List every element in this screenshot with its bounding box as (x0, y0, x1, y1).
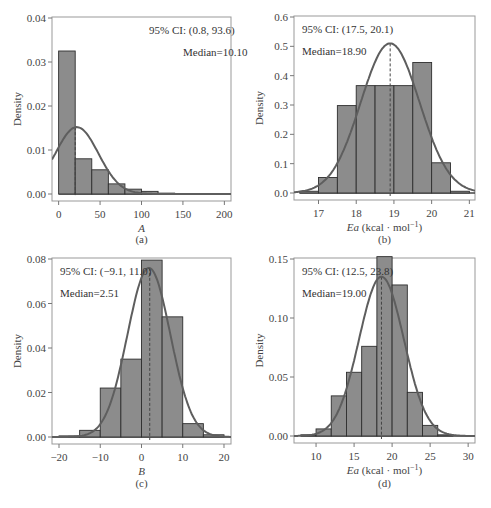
y-axis-label: Density (253, 333, 265, 368)
y-tick-label: 0.3 (274, 99, 288, 111)
y-axis-label: Density (11, 333, 23, 368)
y-tick-label: 0.5 (274, 40, 288, 52)
ci-annotation: 95% CI: (12.5, 23.8) (302, 265, 393, 278)
y-tick-label: 0.10 (269, 312, 289, 324)
x-tick-label: 18 (351, 207, 363, 219)
y-tick-label: 0.04 (27, 12, 47, 24)
median-annotation: Median=18.90 (302, 45, 367, 57)
histogram-bar (331, 396, 346, 436)
x-tick-label: −10 (92, 451, 110, 463)
x-tick-label: 10 (177, 451, 189, 463)
x-tick-label: 10 (311, 450, 323, 462)
x-tick-label: −20 (50, 451, 68, 463)
y-axis-label: Density (253, 90, 265, 125)
histogram-bar (375, 86, 394, 193)
x-tick-label: 20 (426, 207, 438, 219)
x-axis-label: Ea (kcal · mol−1) (346, 463, 423, 477)
y-tick-label: 0.2 (274, 128, 288, 140)
histogram-bar (75, 159, 92, 194)
y-axis-label: Density (11, 91, 23, 126)
x-tick-label: 20 (387, 450, 399, 462)
y-tick-label: 0.02 (27, 387, 46, 399)
y-tick-label: 0.0 (274, 187, 288, 199)
histogram-bar (121, 359, 142, 437)
y-tick-label: 0.00 (27, 188, 47, 200)
panel-label: (b) (378, 233, 391, 246)
histogram-bar (377, 257, 392, 436)
histogram-bar (100, 388, 121, 437)
y-tick-label: 0.1 (274, 158, 288, 170)
x-tick-label: 100 (133, 208, 150, 220)
histogram-bar (362, 346, 377, 436)
y-tick-label: 0.04 (27, 342, 47, 354)
panel-2: 0.000.020.040.060.08−20−1001020DensityB(… (11, 253, 231, 490)
y-tick-label: 0.4 (274, 70, 288, 82)
ci-annotation: 95% CI: (−9.1, 11.0) (60, 265, 152, 278)
ci-annotation: 95% CI: (17.5, 20.1) (302, 23, 393, 36)
y-tick-label: 0.01 (27, 144, 46, 156)
y-tick-label: 0.05 (269, 371, 289, 383)
x-tick-label: 0 (56, 208, 62, 220)
x-tick-label: 15 (349, 450, 361, 462)
y-tick-label: 0.00 (269, 430, 289, 442)
histogram-bar (319, 177, 338, 193)
y-tick-label: 0.03 (27, 56, 47, 68)
median-annotation: Median=2.51 (60, 287, 119, 299)
panel-label: (a) (135, 233, 148, 246)
histogram-bar (432, 163, 451, 193)
y-tick-label: 0.06 (27, 298, 47, 310)
median-annotation: Median=19.00 (302, 287, 367, 299)
x-tick-label: 20 (218, 451, 230, 463)
histogram-bar (394, 86, 413, 193)
histogram-bar (59, 51, 76, 194)
figure-histograms: 0.000.010.020.030.04050100150200DensityA… (0, 0, 491, 508)
median-annotation: Median=10.10 (183, 46, 248, 58)
histogram-bar (183, 424, 204, 437)
x-tick-label: 19 (388, 207, 400, 219)
y-tick-label: 0.00 (27, 431, 47, 443)
y-tick-label: 0.6 (274, 11, 288, 23)
y-tick-label: 0.08 (27, 253, 47, 265)
x-tick-label: 150 (175, 208, 192, 220)
panel-label: (d) (378, 477, 391, 490)
x-tick-label: 17 (313, 207, 325, 219)
histogram-bar (392, 285, 407, 436)
y-tick-label: 0.02 (27, 100, 46, 112)
x-tick-label: 50 (95, 208, 107, 220)
histogram-bar (108, 184, 125, 194)
x-tick-label: 0 (139, 451, 145, 463)
x-tick-label: 200 (216, 208, 233, 220)
x-axis-label: Ea (kcal · mol−1) (346, 220, 423, 234)
x-tick-label: 21 (464, 207, 475, 219)
histogram-bar (450, 191, 469, 193)
panel-0: 0.000.010.020.030.04050100150200DensityA… (11, 12, 248, 246)
panel-1: 0.00.10.20.30.40.50.61718192021DensityEa… (253, 11, 475, 246)
histogram-bar (92, 170, 109, 194)
x-tick-label: 30 (463, 450, 475, 462)
y-tick-label: 0.15 (269, 253, 289, 265)
panel-3: 0.000.050.100.151015202530DensityEa (kca… (253, 253, 475, 490)
panel-label: (c) (135, 477, 148, 490)
ci-annotation: 95% CI: (0.8, 93.6) (149, 24, 235, 37)
x-tick-label: 25 (425, 450, 437, 462)
histogram-bar (337, 106, 356, 193)
x-axis-label: B (138, 465, 145, 477)
histogram-bar (356, 86, 375, 193)
